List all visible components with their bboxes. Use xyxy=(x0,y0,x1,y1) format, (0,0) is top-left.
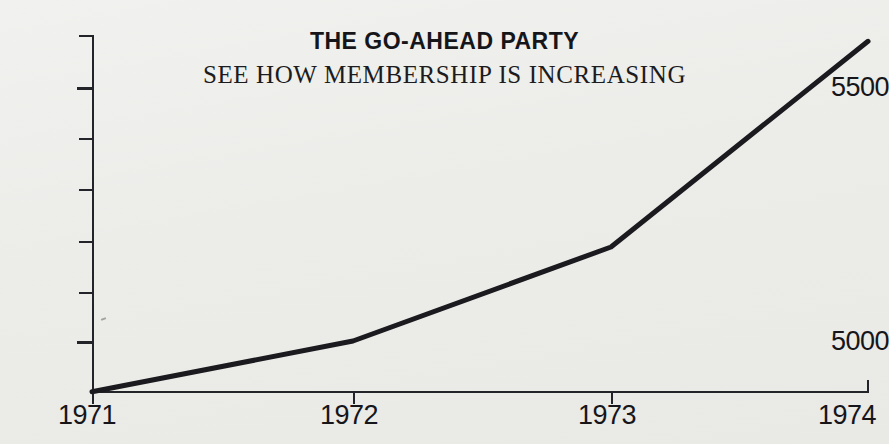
membership-line-series xyxy=(0,0,889,444)
plot-area: 5500 5000 1971 1972 1973 1974 xyxy=(0,0,889,444)
chart-figure: THE GO-AHEAD PARTY SEE HOW MEMBERSHIP IS… xyxy=(0,0,889,444)
series-polyline xyxy=(92,41,868,392)
